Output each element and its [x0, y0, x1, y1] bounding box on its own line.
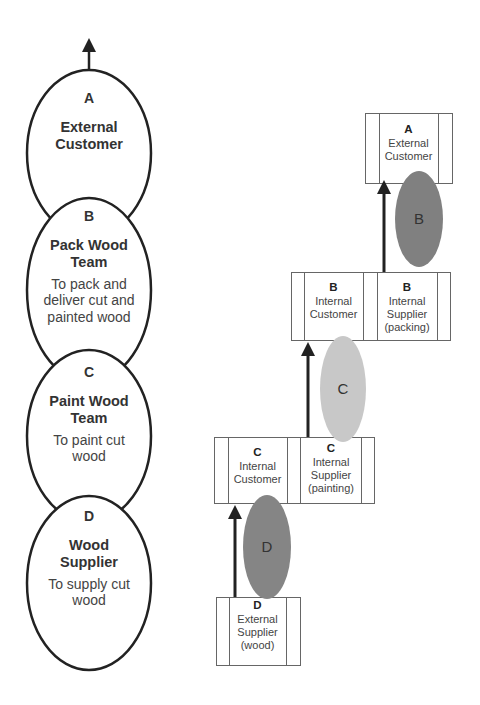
process-b-letter: B	[404, 210, 434, 228]
node-letter: D	[30, 508, 148, 525]
node-desc: To pack and deliver cut and painted wood	[30, 276, 148, 326]
process-c-letter: C	[328, 380, 358, 398]
node-title: External Customer	[34, 119, 144, 154]
arrow-head-icon	[82, 38, 96, 52]
cell-letter: C	[297, 442, 365, 456]
cell-letter: B	[377, 281, 437, 295]
node-a-label: A External Customer	[34, 90, 144, 154]
node-c-label: C Paint Wood Team To paint cut wood	[30, 364, 148, 465]
arrow-head-icon	[228, 505, 242, 519]
box-c-supplier-cell: C Internal Supplier (painting)	[297, 442, 365, 495]
arrow-head-icon	[301, 342, 315, 356]
cell-letter: C	[228, 446, 287, 460]
node-title: Wood Supplier	[30, 537, 148, 572]
box-b-supplier-cell: B Internal Supplier (packing)	[377, 281, 437, 334]
cell-text: Internal Supplier (painting)	[308, 456, 354, 494]
cell-text: Internal Customer	[310, 295, 358, 320]
process-d-letter: D	[252, 538, 282, 556]
cell-text: External Supplier (wood)	[237, 613, 277, 651]
node-b-label: B Pack Wood Team To pack and deliver cut…	[30, 208, 148, 326]
cell-letter: A	[379, 123, 438, 137]
cell-text: Internal Customer	[234, 460, 282, 485]
cell-letter: B	[304, 281, 363, 295]
cell-text: External Customer	[385, 137, 433, 162]
node-d-label: D Wood Supplier To supply cut wood	[30, 508, 148, 609]
box-b-customer-cell: B Internal Customer	[304, 281, 363, 321]
node-title: Paint Wood Team	[30, 393, 148, 428]
box-a-cell: A External Customer	[379, 123, 438, 163]
box-d-cell: D External Supplier (wood)	[229, 599, 286, 652]
node-title: Pack Wood Team	[30, 237, 148, 272]
box-c-customer-cell: C Internal Customer	[228, 446, 287, 486]
cell-letter: D	[229, 599, 286, 613]
node-desc: To paint cut wood	[30, 432, 148, 466]
node-letter: C	[30, 364, 148, 381]
node-letter: A	[34, 90, 144, 107]
cell-text: Internal Supplier (packing)	[384, 295, 429, 333]
node-letter: B	[30, 208, 148, 225]
node-desc: To supply cut wood	[30, 576, 148, 610]
